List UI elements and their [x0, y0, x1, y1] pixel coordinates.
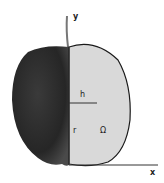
radius-label: r: [73, 127, 76, 135]
apple-stem: [67, 16, 68, 47]
x-axis-label: x: [150, 169, 155, 177]
region-omega: [69, 44, 130, 165]
height-label: h: [80, 91, 85, 99]
region-label: Ω: [100, 127, 106, 135]
y-axis-label: y: [73, 13, 78, 21]
apple-skin-half: [12, 46, 69, 166]
